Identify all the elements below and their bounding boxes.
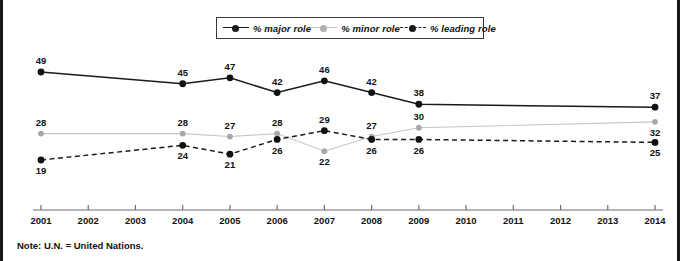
data-point-marker [416, 125, 422, 131]
data-point-marker [179, 80, 186, 87]
x-axis-tick-label: 2002 [78, 215, 99, 226]
data-point-marker [38, 157, 45, 164]
data-point-marker [274, 89, 281, 96]
data-point-marker [369, 134, 375, 140]
legend-marker-minor-role-icon [311, 23, 337, 33]
data-point-marker [38, 131, 44, 137]
x-axis-tick-label: 2013 [597, 215, 618, 226]
legend-item-leading-role: % leading role [400, 23, 496, 34]
data-point-marker [227, 134, 233, 140]
data-point-marker [652, 104, 659, 111]
legend-label-leading-role: % leading role [430, 23, 496, 34]
data-point-label: 27 [366, 120, 377, 131]
data-point-label: 32 [650, 127, 661, 138]
x-axis-tick-label: 2012 [550, 215, 571, 226]
data-point-label: 37 [650, 90, 661, 101]
data-point-label: 28 [272, 117, 283, 128]
data-point-marker [38, 69, 45, 76]
data-point-label: 26 [414, 145, 425, 156]
data-point-marker [652, 119, 658, 125]
data-point-marker [274, 131, 280, 137]
data-point-label: 42 [366, 76, 377, 87]
data-point-label: 28 [36, 117, 47, 128]
chart-legend: % major role % minor role % leading role [216, 17, 484, 39]
series-line-leading-role [41, 131, 655, 160]
data-point-marker [274, 136, 281, 143]
data-point-label: 25 [650, 147, 661, 158]
data-point-label: 29 [319, 114, 330, 125]
data-point-label: 26 [366, 145, 377, 156]
data-point-label: 19 [36, 165, 47, 176]
data-point-label: 28 [177, 117, 188, 128]
x-axis-tick-label: 2014 [644, 215, 665, 226]
data-point-label: 42 [272, 76, 283, 87]
data-point-marker [227, 74, 234, 81]
x-axis-tick-label: 2009 [408, 215, 429, 226]
plot-svg [3, 0, 680, 261]
x-axis-tick-label: 2010 [456, 215, 477, 226]
data-point-marker [415, 101, 422, 108]
data-point-marker [321, 148, 327, 154]
data-point-label: 24 [177, 150, 188, 161]
data-point-label: 26 [272, 145, 283, 156]
data-point-label: 22 [319, 156, 330, 167]
x-axis-tick-label: 2007 [314, 215, 335, 226]
figure-note: Note: U.N. = United Nations. [17, 240, 143, 251]
data-point-marker [652, 139, 659, 146]
x-axis-tick-label: 2001 [30, 215, 51, 226]
x-axis-tick-label: 2008 [361, 215, 382, 226]
data-point-marker [321, 77, 328, 84]
legend-item-minor-role: % minor role [311, 23, 400, 34]
x-axis-tick-label: 2005 [219, 215, 240, 226]
x-axis-tick-label: 2003 [125, 215, 146, 226]
data-point-label: 21 [225, 159, 236, 170]
data-point-label: 47 [225, 61, 236, 72]
data-point-label: 46 [319, 64, 330, 75]
data-point-label: 38 [414, 87, 425, 98]
x-axis-tick-label: 2006 [267, 215, 288, 226]
data-point-label: 49 [36, 55, 47, 66]
data-point-marker [368, 89, 375, 96]
legend-marker-leading-role-icon [400, 23, 426, 33]
data-point-label: 27 [225, 120, 236, 131]
legend-label-minor-role: % minor role [341, 23, 400, 34]
x-axis-tick-label: 2004 [172, 215, 193, 226]
legend-label-major-role: % major role [253, 23, 311, 34]
data-point-marker [180, 131, 186, 137]
series-line-minor-role [41, 122, 655, 151]
data-point-marker [179, 142, 186, 149]
data-point-marker [368, 136, 375, 143]
data-point-marker [415, 136, 422, 143]
x-axis-tick-label: 2011 [503, 215, 524, 226]
data-point-label: 30 [414, 111, 425, 122]
data-point-marker [227, 151, 234, 158]
data-point-marker [321, 127, 328, 134]
series-line-major-role [41, 72, 655, 107]
figure-panel: % major role % minor role % leading role… [0, 0, 680, 261]
legend-item-major-role: % major role [223, 23, 311, 34]
legend-marker-major-role-icon [223, 23, 249, 33]
line-chart-plot [3, 0, 680, 261]
data-point-label: 45 [177, 67, 188, 78]
